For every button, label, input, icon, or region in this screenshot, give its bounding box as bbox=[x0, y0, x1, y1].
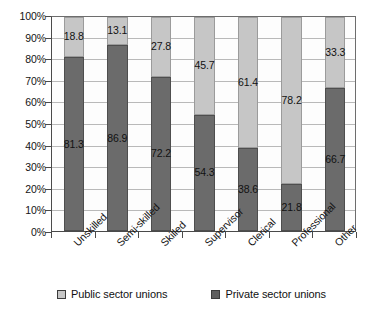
bar-value-label-private: 54.3 bbox=[194, 166, 214, 178]
bar-segment-public[interactable]: 13.1 bbox=[107, 17, 127, 45]
bar-value-label-public: 18.8 bbox=[64, 30, 84, 42]
bar-value-label-private: 21.8 bbox=[282, 201, 302, 213]
stacked-bar-chart: 100%90%80%70%60%50%40%30%20%10%0% 18.881… bbox=[0, 0, 383, 318]
y-tick-label: 0% bbox=[6, 226, 46, 238]
x-tick-mark bbox=[95, 232, 96, 238]
stacked-bar[interactable]: 33.366.7 bbox=[325, 17, 345, 231]
x-tick-mark bbox=[51, 232, 52, 238]
bar-value-label-public: 45.7 bbox=[194, 59, 214, 71]
legend-entry-public[interactable]: Public sector unions bbox=[57, 288, 167, 300]
legend-label-public: Public sector unions bbox=[71, 288, 167, 300]
legend-entry-private[interactable]: Private sector unions bbox=[211, 288, 326, 300]
y-tick-label: 20% bbox=[6, 183, 46, 195]
bar-slot: 61.438.6 bbox=[238, 17, 258, 231]
stacked-bar[interactable]: 27.872.2 bbox=[151, 17, 171, 231]
bar-slot: 33.366.7 bbox=[325, 17, 345, 231]
x-tick-mark bbox=[225, 232, 226, 238]
bar-slot: 18.881.3 bbox=[64, 17, 84, 231]
x-tick-mark bbox=[138, 232, 139, 238]
stacked-bar[interactable]: 18.881.3 bbox=[64, 17, 84, 231]
dark-gray-square-icon bbox=[211, 290, 220, 299]
bar-slot: 45.754.3 bbox=[194, 17, 214, 231]
bar-segment-private[interactable]: 38.6 bbox=[238, 148, 258, 231]
bar-slot: 78.221.8 bbox=[281, 17, 301, 231]
bar-value-label-public: 27.8 bbox=[151, 40, 171, 52]
bar-segment-private[interactable]: 86.9 bbox=[107, 45, 127, 231]
x-tick-mark bbox=[356, 232, 357, 238]
bar-slot: 27.872.2 bbox=[151, 17, 171, 231]
bar-segment-private[interactable]: 54.3 bbox=[194, 115, 214, 231]
stacked-bar[interactable]: 13.186.9 bbox=[107, 17, 127, 231]
y-tick-label: 60% bbox=[6, 96, 46, 108]
y-tick-label: 70% bbox=[6, 75, 46, 87]
x-tick-mark bbox=[182, 232, 183, 238]
bar-value-label-public: 78.2 bbox=[282, 94, 302, 106]
bar-value-label-public: 33.3 bbox=[325, 46, 345, 58]
y-tick-label: 40% bbox=[6, 140, 46, 152]
stacked-bar[interactable]: 45.754.3 bbox=[194, 17, 214, 231]
chart-legend: Public sector unions Private sector unio… bbox=[0, 288, 383, 300]
y-tick-label: 30% bbox=[6, 161, 46, 173]
y-tick-label: 90% bbox=[6, 32, 46, 44]
bar-value-label-private: 38.6 bbox=[238, 183, 258, 195]
y-tick-label: 80% bbox=[6, 53, 46, 65]
plot-area: 18.881.313.186.927.872.245.754.361.438.6… bbox=[51, 16, 356, 232]
x-tick-mark bbox=[312, 232, 313, 238]
stacked-bar[interactable]: 78.221.8 bbox=[281, 17, 301, 231]
light-gray-square-icon bbox=[57, 290, 66, 299]
bar-value-label-private: 72.2 bbox=[151, 147, 171, 159]
bar-value-label-private: 81.3 bbox=[64, 138, 84, 150]
bar-segment-public[interactable]: 27.8 bbox=[151, 17, 171, 77]
bar-slot: 13.186.9 bbox=[107, 17, 127, 231]
y-tick-label: 100% bbox=[6, 10, 46, 22]
bar-segment-public[interactable]: 18.8 bbox=[64, 17, 84, 57]
legend-label-private: Private sector unions bbox=[225, 288, 326, 300]
bar-value-label-private: 66.7 bbox=[325, 153, 345, 165]
bar-segment-private[interactable]: 21.8 bbox=[281, 184, 301, 231]
stacked-bar[interactable]: 61.438.6 bbox=[238, 17, 258, 231]
bar-segment-public[interactable]: 33.3 bbox=[325, 17, 345, 88]
bar-value-label-public: 13.1 bbox=[107, 24, 127, 36]
bar-segment-public[interactable]: 45.7 bbox=[194, 17, 214, 115]
bar-segment-public[interactable]: 78.2 bbox=[281, 17, 301, 184]
bar-segment-public[interactable]: 61.4 bbox=[238, 17, 258, 148]
x-tick-mark bbox=[269, 232, 270, 238]
y-tick-label: 10% bbox=[6, 204, 46, 216]
bar-segment-private[interactable]: 81.3 bbox=[64, 57, 84, 231]
y-tick-label: 50% bbox=[6, 118, 46, 130]
bar-value-label-public: 61.4 bbox=[238, 76, 258, 88]
bar-value-label-private: 86.9 bbox=[107, 132, 127, 144]
